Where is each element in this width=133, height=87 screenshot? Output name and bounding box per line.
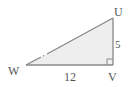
right-triangle-diagram: U V W 5 12 (0, 0, 133, 87)
vertex-label-w: W (8, 65, 19, 77)
side-length-wv: 12 (64, 71, 76, 83)
side-wu-tick (43, 56, 44, 57)
vertex-label-v: V (108, 71, 117, 83)
side-length-uv: 5 (115, 39, 121, 50)
vertex-label-u: U (114, 6, 123, 18)
